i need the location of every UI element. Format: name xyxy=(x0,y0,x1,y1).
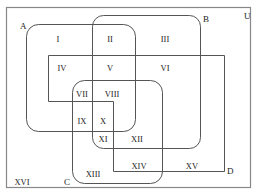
set-c-label: C xyxy=(64,177,70,187)
universe-box xyxy=(7,8,251,188)
region-label: V xyxy=(107,63,114,73)
region-label: XV xyxy=(186,161,199,171)
universe-label: U xyxy=(244,11,251,21)
region-label: XVI xyxy=(14,177,29,187)
region-label: III xyxy=(161,34,170,44)
region-label: XIV xyxy=(131,161,147,171)
set-d-shape xyxy=(49,56,225,172)
set-b-label: B xyxy=(203,14,209,24)
set-d-label: D xyxy=(227,166,234,176)
region-label: XIII xyxy=(86,169,101,179)
region-label: VI xyxy=(161,63,170,73)
region-label: XII xyxy=(131,134,143,144)
region-label: VII xyxy=(76,89,88,99)
region-label: I xyxy=(57,34,60,44)
region-label: X xyxy=(100,116,106,126)
set-a-label: A xyxy=(20,21,27,31)
region-label: IV xyxy=(58,63,68,73)
region-label: IX xyxy=(78,116,87,126)
region-label: XI xyxy=(99,134,108,144)
region-label: VIII xyxy=(105,89,120,99)
venn-diagram: U A B C D I II III IV V VI VII VIII IX X… xyxy=(0,0,254,191)
region-label: II xyxy=(107,34,113,44)
